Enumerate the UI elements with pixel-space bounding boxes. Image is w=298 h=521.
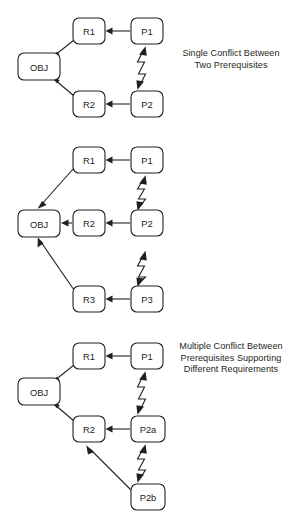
multiple-conflict-different-requirements-graphic: OBJ R1 R2 R3 P1 P2 P3 — [0, 130, 298, 320]
multiple-conflict-same-requirement-panel: OBJ R1 R2 P1 P2a P2b Multiple Conflict (… — [0, 320, 298, 521]
node-p1-label: P1 — [141, 155, 152, 166]
multiple-conflict-same-requirement-graphic: OBJ R1 R2 P1 P2a P2b — [0, 320, 298, 521]
conflict-bolt-p1-p2 — [136, 46, 146, 90]
node-p1: P1 — [131, 343, 163, 369]
node-r2: R2 — [73, 416, 105, 442]
node-r1-label: R1 — [83, 351, 95, 362]
node-r2-label: R2 — [83, 424, 95, 435]
arrow-p3-to-r3 — [106, 296, 131, 303]
node-p2b-label: P2b — [140, 492, 157, 503]
arrow-p2-to-r2 — [106, 220, 131, 227]
arrow-r3-to-obj — [38, 238, 74, 290]
node-r1: R1 — [73, 147, 105, 173]
arrow-p2a-to-r2 — [106, 426, 131, 433]
single-conflict-caption: Single Conflict Between Two Prerequisite… — [166, 48, 296, 71]
node-p3: P3 — [131, 286, 163, 312]
arrow-p1-to-r1 — [106, 157, 131, 164]
arrow-p2-to-r2 — [106, 101, 131, 108]
node-obj: OBJ — [18, 53, 60, 80]
conflict-bolt-p1-p2a — [136, 371, 146, 415]
conflict-bolt-p2-p3 — [136, 251, 146, 287]
node-p2a-label: P2a — [140, 424, 157, 435]
node-r1: R1 — [73, 18, 105, 44]
node-r2: R2 — [73, 210, 105, 236]
node-obj: OBJ — [18, 378, 60, 405]
node-r1-label: R1 — [83, 26, 95, 37]
node-r1-label: R1 — [83, 155, 95, 166]
node-p1-label: P1 — [141, 26, 152, 37]
node-obj-label: OBJ — [30, 62, 48, 73]
node-p1-label: P1 — [141, 351, 152, 362]
arrow-p1-to-r1 — [106, 353, 131, 360]
node-p2: P2 — [131, 210, 163, 236]
node-p2: P2 — [131, 91, 163, 117]
node-r1: R1 — [73, 343, 105, 369]
arrow-p2b-to-r2 — [86, 445, 133, 492]
arrow-r2-to-obj — [61, 219, 72, 226]
conflict-bolt-p2a-p2b — [136, 444, 146, 483]
arrow-r1-to-obj — [38, 168, 74, 209]
node-p2b: P2b — [131, 484, 165, 510]
node-p1: P1 — [131, 18, 163, 44]
node-r2-label: R2 — [83, 218, 95, 229]
node-obj-label: OBJ — [30, 219, 48, 230]
single-conflict-diagram-panel: OBJ R1 R2 P1 P2 Single Conflict Between … — [0, 0, 298, 130]
node-obj: OBJ — [18, 210, 60, 237]
caption-line: Single Conflict Between — [166, 48, 296, 60]
node-p2-label: P2 — [141, 99, 152, 110]
node-r3: R3 — [73, 286, 105, 312]
arrow-p1-to-r1 — [106, 28, 131, 35]
node-r2: R2 — [73, 91, 105, 117]
caption-line: Two Prerequisites — [166, 60, 296, 72]
node-p1: P1 — [131, 147, 163, 173]
node-p2a: P2a — [131, 416, 165, 442]
node-p3-label: P3 — [141, 294, 152, 305]
conflict-bolt-p1-p2 — [136, 175, 146, 211]
node-p2-label: P2 — [141, 218, 152, 229]
node-r3-label: R3 — [83, 294, 95, 305]
node-obj-label: OBJ — [30, 387, 48, 398]
node-r2-label: R2 — [83, 99, 95, 110]
multiple-conflict-different-requirements-panel: OBJ R1 R2 R3 P1 P2 P3 Multiple Conflict … — [0, 130, 298, 320]
